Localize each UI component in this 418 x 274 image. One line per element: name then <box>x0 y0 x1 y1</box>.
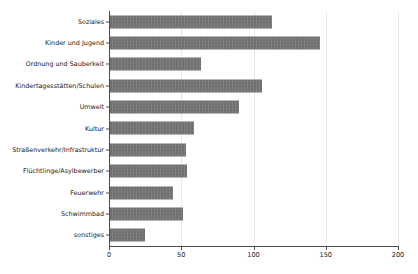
bar-row <box>109 11 398 32</box>
y-axis-tick-mark <box>106 171 110 172</box>
x-axis-tick-label: 50 <box>177 252 185 259</box>
y-axis-tick-label: Feuerwehr <box>4 189 104 195</box>
bar <box>109 143 186 156</box>
y-axis-tick-mark <box>106 149 110 150</box>
bar-chart-figure: SozialesKinder und JugendOrdnung und Sau… <box>0 0 418 274</box>
y-axis-tick-mark <box>106 107 110 108</box>
bar <box>109 101 239 114</box>
bar <box>109 15 272 28</box>
x-axis-tick-mark <box>326 246 327 250</box>
bar <box>109 37 320 50</box>
bar <box>109 58 201 71</box>
bar-row <box>109 32 398 53</box>
y-axis-tick-mark <box>106 85 110 86</box>
bar-row <box>109 225 398 246</box>
bar <box>109 165 187 178</box>
bar-row <box>109 75 398 96</box>
y-axis-tick-mark <box>106 21 110 22</box>
plot-area <box>109 11 398 246</box>
y-axis-tick-label: sonstiges <box>4 232 104 238</box>
x-axis-tick-mark <box>254 246 255 250</box>
x-axis-tick-mark <box>398 246 399 250</box>
y-axis-tick-label: Kinder und Jugend <box>4 40 104 46</box>
bar <box>109 229 145 242</box>
bar <box>109 207 183 220</box>
y-axis-tick-labels: SozialesKinder und JugendOrdnung und Sau… <box>0 0 104 274</box>
x-axis-tick-label: 100 <box>247 252 260 259</box>
bar-row <box>109 161 398 182</box>
y-axis-tick-label: Kultur <box>4 125 104 131</box>
bar-row <box>109 118 398 139</box>
y-axis-spine <box>109 11 110 246</box>
bar-row <box>109 54 398 75</box>
y-axis-tick-mark <box>106 192 110 193</box>
y-axis-tick-label: Schwimmbad <box>4 211 104 217</box>
gridline-200 <box>398 11 399 246</box>
x-axis-tick-mark <box>109 246 110 250</box>
bar-row <box>109 182 398 203</box>
y-axis-tick-label: Umwelt <box>4 104 104 110</box>
bar-row <box>109 203 398 224</box>
x-axis-tick-mark <box>181 246 182 250</box>
y-axis-tick-label: Kindertagesstätten/Schulen <box>4 83 104 89</box>
bar <box>109 122 194 135</box>
x-axis-tick-label: 0 <box>107 252 111 259</box>
y-axis-tick-mark <box>106 235 110 236</box>
x-axis-tick-label: 150 <box>319 252 332 259</box>
y-axis-tick-mark <box>106 128 110 129</box>
bar-row <box>109 139 398 160</box>
y-axis-tick-mark <box>106 43 110 44</box>
bar <box>109 79 262 92</box>
y-axis-tick-mark <box>106 64 110 65</box>
y-axis-tick-label: Straßenverkehr/Infrastruktur <box>4 147 104 153</box>
bar-row <box>109 96 398 117</box>
bar <box>109 186 173 199</box>
y-axis-tick-label: Ordnung und Sauberkeit <box>4 61 104 67</box>
y-axis-tick-label: Soziales <box>4 18 104 24</box>
y-axis-tick-mark <box>106 213 110 214</box>
x-axis-tick-label: 200 <box>392 252 405 259</box>
y-axis-tick-label: Flüchtlinge/Asylbewerber <box>4 168 104 174</box>
